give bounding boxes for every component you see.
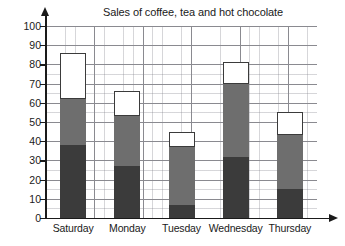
bar-segment-hot-chocolate[interactable]: [60, 53, 86, 99]
bar-segment-coffee[interactable]: [60, 145, 86, 218]
chart-title: Sales of coffee, tea and hot chocolate: [58, 6, 328, 18]
y-tick-label: 60: [3, 97, 41, 109]
x-tick-label-saturday: Saturday: [53, 222, 94, 234]
x-tick-label-tuesday: Tuesday: [162, 222, 201, 234]
bar-group[interactable]: [223, 26, 249, 218]
bar-segment-tea[interactable]: [277, 135, 303, 189]
bar-group[interactable]: [169, 26, 195, 218]
y-axis-tick-labels: 0102030405060708090100: [0, 0, 41, 246]
bar-segment-coffee[interactable]: [223, 157, 249, 218]
bar-segment-hot-chocolate[interactable]: [169, 132, 195, 147]
gridline-vertical: [94, 26, 95, 218]
y-tick-label: 10: [3, 193, 41, 205]
bar-group[interactable]: [277, 26, 303, 218]
y-tick-mark: [40, 199, 46, 200]
bar-segment-hot-chocolate[interactable]: [223, 62, 249, 83]
bar-segment-tea[interactable]: [114, 116, 140, 166]
gridline-vertical: [143, 26, 144, 218]
y-tick-label: 80: [3, 58, 41, 70]
y-tick-label: 90: [3, 39, 41, 51]
x-tick-label-monday: Monday: [109, 222, 145, 234]
bar-group[interactable]: [60, 26, 86, 218]
y-tick-label: 30: [3, 154, 41, 166]
y-tick-mark: [40, 45, 46, 46]
y-tick-mark: [40, 141, 46, 142]
bar-segment-tea[interactable]: [223, 84, 249, 157]
y-tick-mark: [40, 64, 46, 65]
x-axis-tick-labels: SaturdayMondayTuesdayWednesdayThursday: [0, 222, 345, 244]
y-tick-mark: [40, 122, 46, 123]
bar-chart: Sales of coffee, tea and hot chocolate 0…: [0, 0, 345, 246]
y-tick-mark: [40, 26, 46, 27]
y-tick-label: 50: [3, 116, 41, 128]
x-axis-line: [45, 218, 330, 220]
right-arrow-icon: [329, 214, 338, 222]
bar-segment-coffee[interactable]: [169, 205, 195, 218]
y-tick-label: 70: [3, 78, 41, 90]
x-tick-label-thursday: Thursday: [269, 222, 312, 234]
y-tick-label: 100: [3, 20, 41, 32]
bar-segment-coffee[interactable]: [277, 189, 303, 218]
bar-group[interactable]: [114, 26, 140, 218]
bar-segment-hot-chocolate[interactable]: [277, 112, 303, 135]
plot-area: [46, 26, 317, 218]
y-tick-label: 20: [3, 174, 41, 186]
bar-segment-hot-chocolate[interactable]: [114, 91, 140, 116]
y-tick-mark: [40, 103, 46, 104]
bar-segment-tea[interactable]: [169, 147, 195, 205]
y-tick-mark: [40, 160, 46, 161]
y-tick-label: 40: [3, 135, 41, 147]
bar-segment-tea[interactable]: [60, 99, 86, 145]
y-tick-mark: [40, 218, 46, 219]
y-tick-mark: [40, 84, 46, 85]
up-arrow-icon: [41, 7, 49, 16]
y-tick-mark: [40, 180, 46, 181]
bar-segment-coffee[interactable]: [114, 166, 140, 218]
x-tick-label-wednesday: Wednesday: [209, 222, 263, 234]
